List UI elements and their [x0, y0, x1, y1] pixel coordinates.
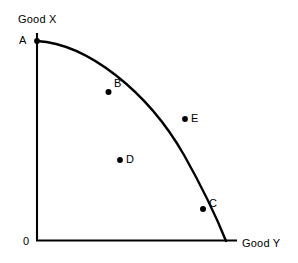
point-d-marker[interactable]	[117, 157, 123, 163]
point-b-label: B	[114, 77, 121, 89]
y-axis-title: Good X	[18, 13, 57, 25]
origin-label: 0	[23, 235, 29, 247]
point-e-label: E	[191, 112, 198, 124]
point-e-marker[interactable]	[182, 116, 188, 122]
ppf-diagram: Good X Good Y 0 A B C D E	[0, 0, 298, 263]
point-b-marker[interactable]	[106, 89, 112, 95]
point-d-label: D	[126, 153, 134, 165]
ppf-curve	[37, 41, 226, 241]
point-a-marker[interactable]	[34, 38, 40, 44]
point-a-label: A	[19, 34, 26, 46]
x-axis-title: Good Y	[242, 237, 280, 249]
point-c-marker[interactable]	[200, 206, 206, 212]
ppf-svg-canvas	[0, 0, 298, 263]
point-c-label: C	[209, 197, 217, 209]
